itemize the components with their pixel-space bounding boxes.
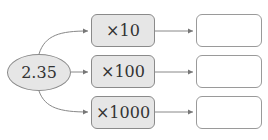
result-box-3[interactable]: [196, 96, 262, 129]
result-box-2[interactable]: [196, 55, 262, 88]
start-value-oval: 2.35: [7, 54, 71, 91]
operation-box-times-1000: ×1000: [91, 96, 155, 129]
result-box-1[interactable]: [196, 14, 262, 47]
operation-label: ×100: [101, 62, 145, 81]
operation-label: ×10: [106, 21, 140, 40]
operation-box-times-100: ×100: [91, 55, 155, 88]
operation-box-times-10: ×10: [91, 14, 155, 47]
start-value: 2.35: [21, 63, 57, 82]
operation-label: ×1000: [96, 103, 150, 122]
